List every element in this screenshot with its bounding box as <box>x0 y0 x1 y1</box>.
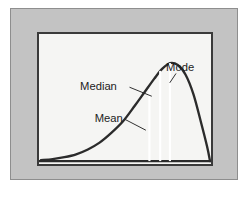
label-median: Median <box>80 80 117 92</box>
label-mean: Mean <box>95 112 123 124</box>
distribution-chart: MeanMedianMode <box>39 34 211 164</box>
plot-frame: MeanMedianMode <box>37 32 213 166</box>
label-mode: Mode <box>166 61 194 73</box>
marker-lines-group <box>149 63 170 161</box>
density-curve <box>41 63 210 161</box>
figure-panel: MeanMedianMode <box>10 8 238 180</box>
annotation-group: MeanMedianMode <box>80 61 194 130</box>
leader-line-mean <box>125 119 146 130</box>
caption-sliver <box>14 190 164 196</box>
figure-root: MeanMedianMode <box>0 0 249 198</box>
